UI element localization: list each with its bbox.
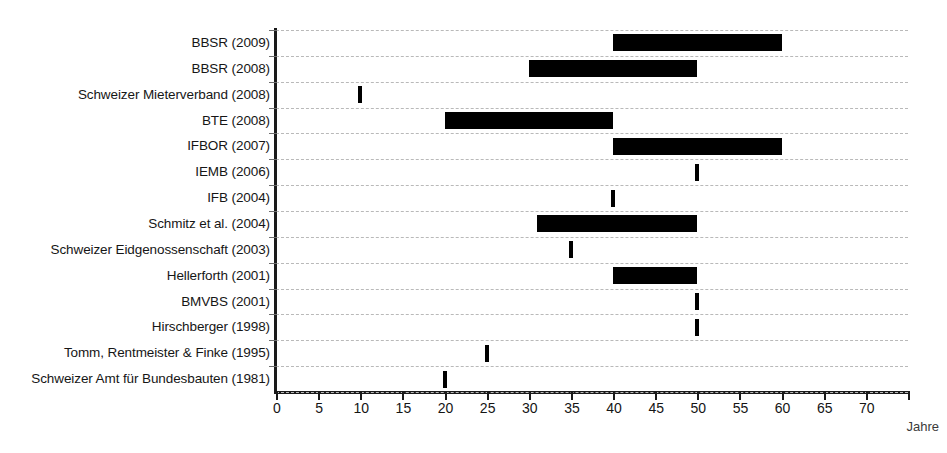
x-axis-tick-label: 30	[522, 400, 538, 416]
y-axis-label: Schmitz et al. (2004)	[2, 217, 270, 231]
data-bar	[537, 215, 697, 232]
y-axis-label: IFB (2004)	[2, 191, 270, 205]
gridline	[276, 314, 908, 315]
x-axis-tick	[571, 392, 573, 400]
y-axis-label: Schweizer Mieterverband (2008)	[2, 88, 270, 102]
gridline	[276, 237, 908, 238]
data-point-marker	[695, 319, 699, 336]
x-axis-tick	[739, 392, 741, 400]
x-axis-tick-label: 5	[315, 400, 323, 416]
gridline	[276, 289, 908, 290]
gridline	[276, 340, 908, 341]
y-axis-tick	[269, 211, 277, 212]
y-axis-tick	[269, 366, 277, 367]
x-axis-tick	[824, 392, 826, 400]
gridline	[276, 159, 908, 160]
y-axis-tick	[269, 133, 277, 134]
y-axis-tick	[269, 340, 277, 341]
data-point-marker	[443, 371, 447, 388]
x-axis-tick	[866, 392, 868, 400]
x-axis-tick-label: 45	[648, 400, 664, 416]
x-axis-tick	[360, 392, 362, 400]
y-axis-tick	[269, 108, 277, 109]
x-axis-tick-label: 50	[691, 400, 707, 416]
y-axis-label: IFBOR (2007)	[2, 139, 270, 153]
y-axis-tick	[269, 289, 277, 290]
x-axis-tick	[487, 392, 489, 400]
x-axis-tick-label: 15	[396, 400, 412, 416]
y-axis-tick	[269, 237, 277, 238]
x-axis-tick	[529, 392, 531, 400]
y-axis-label: Tomm, Rentmeister & Finke (1995)	[2, 346, 270, 360]
x-axis-tick-label: 20	[438, 400, 454, 416]
x-axis-tick-label: 65	[817, 400, 833, 416]
data-bar	[613, 138, 782, 155]
data-point-marker	[569, 241, 573, 258]
y-axis-label: Hellerforth (2001)	[2, 269, 270, 283]
data-point-marker	[358, 86, 362, 103]
x-axis-tick	[318, 392, 320, 400]
data-point-marker	[695, 293, 699, 310]
y-axis-tick	[269, 185, 277, 186]
data-point-marker	[485, 345, 489, 362]
x-axis-tick	[613, 392, 615, 400]
y-axis-label: BTE (2008)	[2, 114, 270, 128]
y-axis-label: Schweizer Eidgenossenschaft (2003)	[2, 243, 270, 257]
gridline	[276, 211, 908, 212]
x-axis-tick	[697, 392, 699, 400]
x-axis-tick	[445, 392, 447, 400]
y-axis-labels: BBSR (2009)BBSR (2008)Schweizer Mieterve…	[0, 0, 270, 453]
x-axis-tick-label: 10	[353, 400, 369, 416]
gridline	[276, 133, 908, 134]
x-axis-tick-label: 25	[480, 400, 496, 416]
plot-area	[276, 30, 908, 392]
gridline	[276, 392, 908, 393]
y-axis-label: Hirschberger (1998)	[2, 320, 270, 334]
x-axis-tick	[276, 392, 278, 400]
y-axis-label: IEMB (2006)	[2, 165, 270, 179]
y-axis-tick	[269, 314, 277, 315]
gridline	[276, 56, 908, 57]
y-axis-label: BBSR (2008)	[2, 62, 270, 76]
data-bar	[445, 112, 614, 129]
data-point-marker	[611, 190, 615, 207]
data-bar	[529, 60, 698, 77]
data-bar	[613, 267, 697, 284]
y-axis-tick	[269, 56, 277, 57]
y-axis-label: BBSR (2009)	[2, 36, 270, 50]
span-chart: BBSR (2009)BBSR (2008)Schweizer Mieterve…	[0, 0, 947, 453]
x-axis-tick	[402, 392, 404, 400]
gridline	[276, 366, 908, 367]
x-axis-tick-label: 35	[564, 400, 580, 416]
gridline	[276, 82, 908, 83]
y-axis-label: Schweizer Amt für Bundesbauten (1981)	[2, 372, 270, 386]
y-axis-tick	[269, 82, 277, 83]
x-axis-tick	[655, 392, 657, 400]
gridline	[276, 263, 908, 264]
gridline	[276, 185, 908, 186]
y-axis-tick	[269, 159, 277, 160]
x-axis-tick-label: 40	[606, 400, 622, 416]
x-axis-tick-label: 0	[273, 400, 281, 416]
y-axis-tick	[269, 30, 277, 31]
y-axis-tick	[269, 263, 277, 264]
y-axis-label: BMVBS (2001)	[2, 295, 270, 309]
x-axis-tick-label: 70	[859, 400, 875, 416]
data-point-marker	[695, 164, 699, 181]
x-axis-tick-label: 60	[775, 400, 791, 416]
gridline	[276, 108, 908, 109]
x-axis-end-tick	[908, 392, 910, 400]
gridline	[276, 30, 908, 31]
data-bar	[613, 34, 782, 51]
x-axis-tick-label: 55	[733, 400, 749, 416]
x-axis-tick	[782, 392, 784, 400]
x-axis-unit-label: Jahre	[906, 419, 939, 434]
